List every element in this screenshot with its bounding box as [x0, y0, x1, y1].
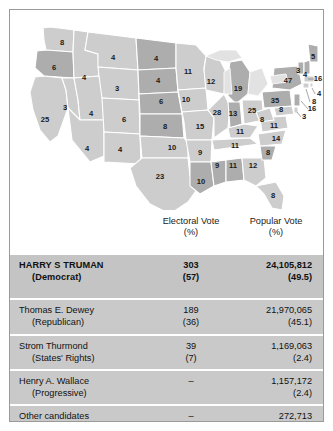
state-ev-label-NV: 3 — [63, 103, 67, 112]
state-ev-label-NC: 14 — [272, 134, 281, 143]
popular-vote-value: 272,713 — [279, 411, 312, 421]
candidate-name-text: Strom Thurmond — [19, 341, 88, 351]
state-ev-label-WA: 8 — [60, 38, 64, 47]
state-ev-label-WI: 12 — [207, 77, 215, 86]
state-ev-label-AL: 11 — [229, 161, 238, 170]
state-MD — [274, 106, 294, 116]
state-ev-label-VA: 11 — [270, 121, 279, 130]
election-figure: 8625434443644468102311101591012281913251… — [9, 9, 324, 422]
electoral-vote-value: 189 — [183, 305, 198, 315]
column-header-electoral-label: Electoral Vote — [163, 216, 220, 226]
popular-vote-value: 1,169,063 — [271, 341, 312, 351]
column-header-popular-sublabel: (%) — [269, 227, 283, 237]
state-CT — [303, 83, 309, 88]
state-ev-label-RI: 4 — [317, 89, 322, 98]
candidate-name: HARRY S TRUMAN (Democrat) — [19, 260, 151, 283]
state-NJ — [294, 94, 300, 106]
state-ev-label-NY: 47 — [284, 76, 292, 85]
table-header-row: Electoral Vote (%) Popular Vote (%) — [10, 210, 323, 254]
state-ev-label-LA: 10 — [197, 177, 205, 186]
candidate-name-text: HARRY S TRUMAN — [19, 260, 104, 270]
state-ev-label-MA: 16 — [314, 74, 322, 83]
state-ev-label-MD: 8 — [279, 105, 283, 114]
electoral-vote-cell: 303 (57) — [148, 260, 234, 283]
column-header-electoral-sublabel: (%) — [184, 227, 198, 237]
state-WA — [43, 27, 74, 52]
state-ev-label-VT: 3 — [296, 66, 300, 75]
popular-vote-value: 21,970,065 — [266, 305, 312, 315]
leader-RI — [312, 88, 315, 94]
electoral-vote-cell: 39 (7) — [148, 341, 234, 364]
electoral-vote-value: 39 — [186, 341, 196, 351]
table-row: Henry A. Wallace (Progressive) – 1,157,1… — [10, 369, 323, 404]
popular-vote-cell: 21,970,065 (45.1) — [232, 305, 312, 328]
electoral-vote-pct: (36) — [148, 317, 234, 329]
state-ev-label-MO: 15 — [196, 122, 205, 131]
state-ev-label-FL: 8 — [271, 191, 275, 200]
candidate-party: (Democrat) — [19, 272, 151, 284]
popular-vote-cell: 24,105,812 (49.5) — [232, 260, 312, 283]
popular-vote-pct: (2.4) — [232, 353, 312, 365]
state-ev-label-AR: 9 — [198, 148, 202, 157]
electoral-vote-cell: – — [148, 376, 234, 388]
state-ev-label-NJ: 16 — [308, 104, 316, 113]
state-ev-label-MN: 11 — [184, 67, 193, 76]
candidate-name: Strom Thurmond (States' Rights) — [19, 341, 151, 364]
table-row: HARRY S TRUMAN (Democrat) 303 (57) 24,10… — [10, 254, 323, 298]
electoral-vote-pct: (7) — [148, 353, 234, 365]
column-header-popular: Popular Vote (%) — [232, 216, 320, 239]
state-ev-label-IA: 10 — [182, 95, 190, 104]
state-ev-label-DE: 3 — [302, 112, 306, 121]
table-row: Thomas E. Dewey (Republican) 189 (36) 21… — [10, 298, 323, 334]
results-table: Electoral Vote (%) Popular Vote (%) HARR… — [10, 210, 323, 422]
state-ev-label-KY: 11 — [236, 127, 245, 136]
state-ev-label-IL: 28 — [213, 108, 221, 117]
state-ev-label-MI: 19 — [234, 84, 242, 93]
state-ev-label-NE: 6 — [159, 97, 163, 106]
state-ev-label-PA: 35 — [271, 96, 280, 105]
state-OK — [140, 136, 188, 158]
popular-vote-pct: (2.4) — [232, 388, 312, 400]
state-NM — [104, 132, 141, 164]
candidate-name-text: Henry A. Wallace — [19, 376, 89, 386]
state-ev-label-MS: 9 — [215, 161, 219, 170]
popular-vote-pct: (49.5) — [232, 272, 312, 284]
candidate-name: Thomas E. Dewey (Republican) — [19, 305, 151, 328]
table-row: Other candidates (Socialist, Prohibition… — [10, 404, 323, 422]
state-ev-label-WY: 3 — [115, 84, 119, 93]
state-ev-label-IN: 13 — [229, 109, 237, 118]
table-row: Strom Thurmond (States' Rights) 39 (7) 1… — [10, 334, 323, 369]
electoral-vote-cell: 189 (36) — [148, 305, 234, 328]
candidate-name-text: Thomas E. Dewey — [19, 305, 94, 315]
candidate-party: (Republican) — [19, 317, 151, 329]
popular-vote-pct: (45.1) — [232, 317, 312, 329]
column-header-popular-label: Popular Vote — [250, 216, 303, 226]
popular-vote-value: 1,157,172 — [271, 376, 312, 386]
state-WI — [204, 56, 226, 94]
state-ev-label-TX: 23 — [156, 172, 164, 181]
electoral-vote-value: 303 — [183, 260, 198, 270]
popular-vote-cell: 272,713 (.6) — [232, 411, 312, 422]
column-header-electoral: Electoral Vote (%) — [148, 216, 234, 239]
state-ev-label-OR: 6 — [52, 63, 56, 72]
electoral-vote-value: – — [188, 411, 193, 421]
popular-vote-value: 24,105,812 — [266, 260, 312, 270]
candidate-party: (Progressive) — [19, 388, 151, 400]
candidate-name: Other candidates (Socialist, Prohibition… — [19, 411, 151, 422]
state-ev-label-CA: 25 — [41, 115, 50, 124]
state-ev-label-OH: 25 — [248, 106, 257, 115]
state-TX — [130, 158, 198, 214]
state-ev-label-WV: 8 — [260, 115, 264, 124]
candidate-name-text: Other candidates — [19, 411, 89, 421]
state-ev-label-OK: 10 — [168, 143, 176, 152]
electoral-vote-pct: (57) — [148, 272, 234, 284]
candidate-party: (States' Rights) — [19, 353, 151, 365]
state-ev-label-KS: 8 — [163, 122, 167, 131]
popular-vote-cell: 1,157,172 (2.4) — [232, 376, 312, 399]
state-ev-label-SC: 8 — [266, 148, 270, 157]
leader-CT — [306, 89, 310, 102]
state-ev-label-TN: 11 — [231, 141, 240, 150]
candidate-name: Henry A. Wallace (Progressive) — [19, 376, 151, 399]
electoral-vote-value: – — [188, 376, 193, 386]
state-ev-label-CO: 6 — [122, 115, 126, 124]
